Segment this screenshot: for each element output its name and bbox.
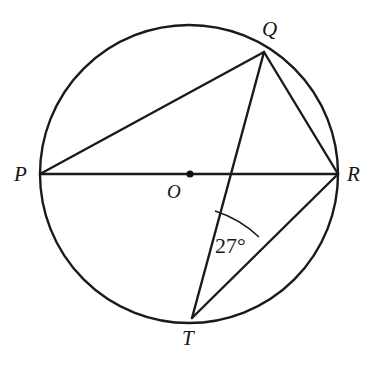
circle-geometry-figure xyxy=(0,0,376,373)
segment-tr-chord xyxy=(192,174,338,318)
center-point-dot xyxy=(186,170,193,177)
segment-qr-chord xyxy=(264,52,338,174)
segment-qt-chord xyxy=(192,52,264,318)
vertex-label-p: P xyxy=(14,164,27,185)
segment-pq-chord xyxy=(40,52,264,174)
vertex-label-q: Q xyxy=(262,19,277,40)
vertex-label-o-center: O xyxy=(167,182,181,201)
geometry-diagram: P Q R T O 27° xyxy=(0,0,376,373)
vertex-label-t: T xyxy=(182,328,194,349)
angle-measure-label: 27° xyxy=(215,235,246,257)
vertex-label-r: R xyxy=(347,164,360,185)
